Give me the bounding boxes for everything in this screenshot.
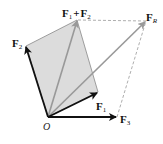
vector-diagram: F1+F2 FR F2 F1 F3 O: [0, 0, 163, 144]
label-fr: FR: [146, 11, 158, 25]
label-f1: F1: [96, 100, 107, 114]
label-origin: O: [43, 121, 50, 132]
label-f1-plus-f2: F1+F2: [62, 7, 91, 21]
label-f3: F3: [120, 113, 131, 127]
label-f2: F2: [12, 37, 23, 51]
